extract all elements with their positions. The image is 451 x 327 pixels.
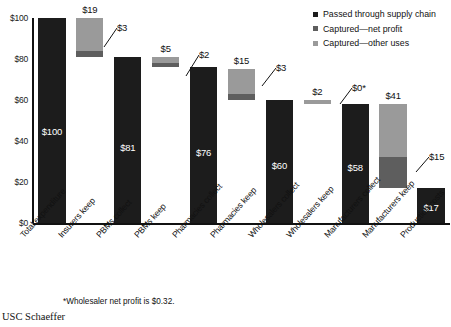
callout-pharmacies-keep: $3 xyxy=(276,62,286,73)
legend-swatch-icon-other-uses xyxy=(313,41,318,46)
callout-wholesalers-keep: $0* xyxy=(352,82,366,93)
legend-label-passed: Passed through supply chain xyxy=(323,9,436,19)
legend-label-other-uses: Captured—other uses xyxy=(323,38,409,48)
legend: Passed through supply chain Captured—net… xyxy=(313,9,436,53)
legend-swatch-icon-net-profit xyxy=(313,26,318,31)
legend-item-net-profit: Captured—net profit xyxy=(313,24,436,34)
legend-item-other-uses: Captured—other uses xyxy=(313,38,436,48)
callout-pbms-keep: $2 xyxy=(199,49,209,60)
legend-item-passed-through: Passed through supply chain xyxy=(313,9,436,19)
callout-manufacturers-keep: $15 xyxy=(429,151,444,162)
legend-label-net-profit: Captured—net profit xyxy=(323,24,402,34)
callout-insurers-keep: $3 xyxy=(117,22,127,33)
legend-swatch-icon-passed xyxy=(313,12,318,17)
brand-logo: USC Schaeffer xyxy=(2,311,65,322)
waterfall-chart: $100 $80 $60 $40 $20 $0 $100$19$81$5$76$… xyxy=(0,0,451,327)
footnote: *Wholesaler net profit is $0.32. xyxy=(63,297,175,306)
